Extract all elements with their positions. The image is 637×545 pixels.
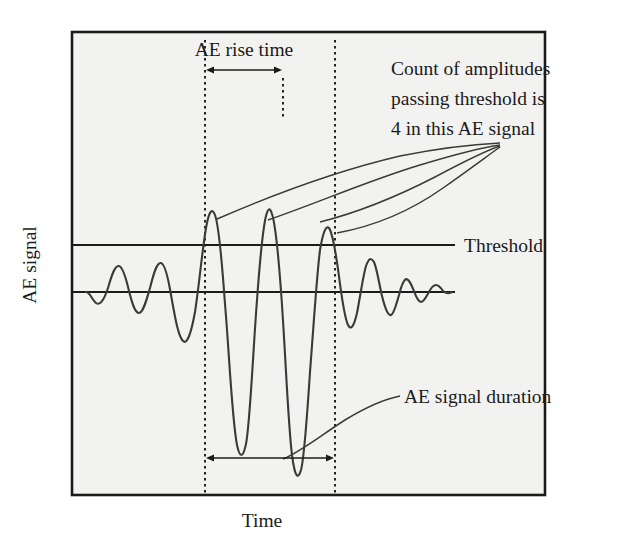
ae-signal-figure: AE rise time Threshold Count of amplitud… xyxy=(0,0,637,545)
x-axis-label: Time xyxy=(242,510,282,531)
y-axis-label: AE signal xyxy=(19,226,40,304)
count-annotation-line-2: passing threshold is xyxy=(391,88,545,109)
ae-signal-diagram: AE rise time Threshold Count of amplitud… xyxy=(0,0,637,545)
count-annotation-line-1: Count of amplitudes xyxy=(391,58,550,79)
rise-time-label: AE rise time xyxy=(195,39,294,60)
threshold-label: Threshold xyxy=(464,235,543,256)
count-annotation-line-3: 4 in this AE signal xyxy=(391,118,536,139)
duration-label: AE signal duration xyxy=(404,386,552,407)
